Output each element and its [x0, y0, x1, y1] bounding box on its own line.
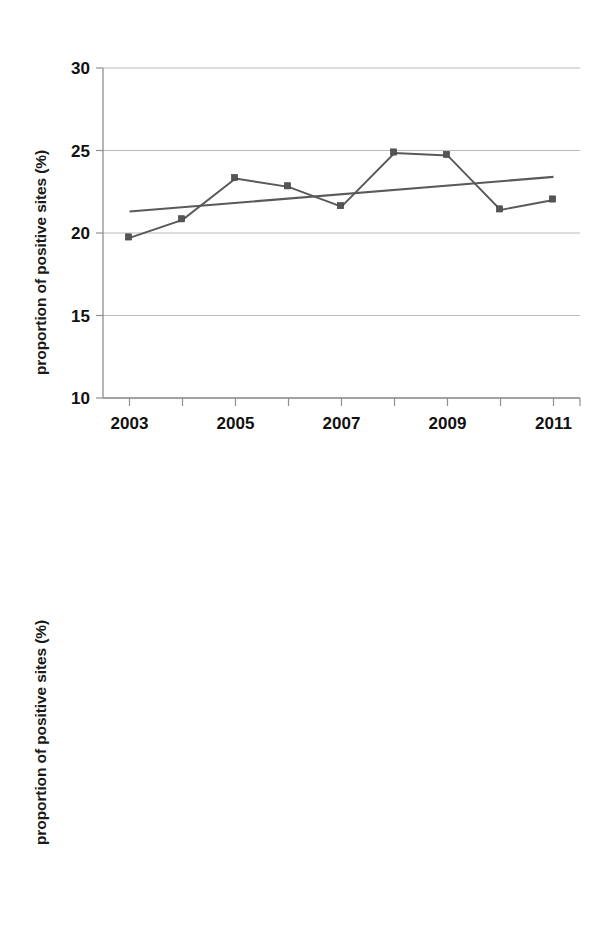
y-tick-label: 20: [71, 224, 90, 243]
data-point-marker: [549, 196, 555, 202]
x-tick-label: 2011: [535, 414, 572, 433]
x-tick-label: 2005: [217, 414, 255, 433]
data-point-marker: [125, 234, 131, 240]
data-point-marker: [443, 151, 449, 157]
page-caption-fragment: [0, 918, 598, 934]
y-tick-label: 25: [71, 142, 90, 161]
line-chart-bottom: 455055606520032005200720092011: [0, 500, 598, 934]
data-series-line: [130, 153, 554, 238]
data-point-marker: [231, 174, 237, 180]
y-tick-label: 15: [71, 307, 90, 326]
x-tick-label: 2007: [323, 414, 361, 433]
chart-panel-top: proportion of positive sites (%) 1015202…: [0, 0, 598, 467]
data-point-marker: [496, 206, 502, 212]
figure-two-line-charts: proportion of positive sites (%) 1015202…: [0, 0, 598, 934]
data-point-marker: [178, 216, 184, 222]
line-chart-top: 101520253020032005200720092011: [0, 0, 598, 467]
x-tick-label: 2009: [429, 414, 467, 433]
y-tick-label: 30: [71, 59, 90, 78]
data-point-marker: [284, 183, 290, 189]
data-point-marker: [390, 149, 396, 155]
data-point-marker: [337, 203, 343, 209]
chart-panel-bottom: proportion of positive sites (%) 4550556…: [0, 500, 598, 934]
x-tick-label: 2003: [111, 414, 149, 433]
y-tick-label: 10: [71, 389, 90, 408]
